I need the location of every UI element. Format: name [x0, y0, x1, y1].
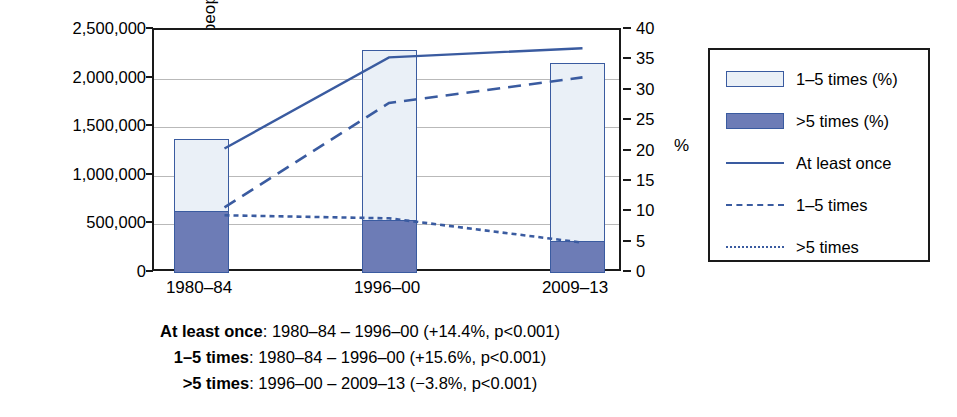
legend-item-label: >5 times (%) — [796, 112, 889, 131]
y2-axis-tick-mark — [623, 118, 631, 120]
legend-swatch-dashed-line-icon — [726, 204, 784, 206]
chart-figure: Number of people % 0500,0001,000,0001,50… — [0, 0, 957, 417]
y-axis-tick-label: 2,500,000 — [73, 19, 146, 38]
y-axis-ticks: 0500,0001,000,0001,500,0002,000,0002,500… — [0, 28, 146, 271]
y2-axis-tick-mark — [623, 149, 631, 151]
line-layer — [154, 30, 623, 273]
legend-item-label: 1–5 times — [796, 196, 868, 215]
x-axis-tick-label: 2009–13 — [542, 278, 608, 298]
annotation-series-name: 1–5 times — [174, 348, 249, 366]
x-axis-tick-label: 1980–84 — [166, 278, 232, 298]
y-axis-tick-label: 0 — [137, 262, 146, 281]
y2-axis-tick-mark — [623, 240, 631, 242]
legend-swatch-dotted-line-icon — [726, 246, 784, 248]
legend-item[interactable]: 1–5 times — [724, 190, 920, 220]
y2-axis-tick-label: 35 — [636, 49, 654, 68]
y2-axis-tick-mark — [623, 88, 631, 90]
annotation-line: At least once: 1980–84 – 1996–00 (+14.4%… — [0, 318, 720, 344]
line-series — [225, 48, 583, 148]
legend-item[interactable]: 1–5 times (%) — [724, 64, 920, 94]
legend-item[interactable]: >5 times — [724, 232, 920, 262]
annotation-series-name: At least once — [160, 322, 263, 340]
annotation-line: 1–5 times: 1980–84 – 1996–00 (+15.6%, p<… — [0, 344, 720, 370]
legend-item[interactable]: At least once — [724, 148, 920, 178]
y2-axis-tick-label: 5 — [636, 231, 645, 250]
x-axis-ticks: 1980–841996–002009–13 — [152, 278, 621, 304]
y2-axis-tick-mark — [623, 209, 631, 211]
y2-axis-tick-mark — [623, 27, 631, 29]
y2-axis-tick-label: 25 — [636, 110, 654, 129]
annotation-detail: : 1996–00 – 2009–13 (−3.8%, p<0.001) — [249, 374, 537, 392]
legend-item-label: >5 times — [796, 238, 859, 257]
y2-axis-ticks: 0510152025303540 — [623, 28, 669, 271]
annotation-line: >5 times: 1996–00 – 2009–13 (−3.8%, p<0.… — [0, 370, 720, 396]
annotation-series-name: >5 times — [183, 374, 250, 392]
legend-swatch-box-icon — [726, 113, 784, 129]
line-series — [225, 77, 583, 207]
y-axis-tick-label: 500,000 — [86, 213, 146, 232]
y2-axis-tick-label: 15 — [636, 170, 654, 189]
y2-axis-tick-mark — [623, 57, 631, 59]
annotation-notes: At least once: 1980–84 – 1996–00 (+14.4%… — [0, 318, 720, 396]
legend-item[interactable]: >5 times (%) — [724, 106, 920, 136]
x-axis-tick-label: 1996–00 — [354, 278, 420, 298]
y2-axis-tick-label: 10 — [636, 201, 654, 220]
plot-area — [152, 28, 621, 271]
y2-axis-tick-mark — [623, 270, 631, 272]
y2-axis-tick-label: 30 — [636, 79, 654, 98]
y2-axis-tick-label: 20 — [636, 140, 654, 159]
annotation-detail: : 1980–84 – 1996–00 (+14.4%, p<0.001) — [263, 322, 560, 340]
y2-axis-tick-label: 0 — [636, 262, 645, 281]
y2-axis-tick-mark — [623, 179, 631, 181]
y2-axis-tick-label: 40 — [636, 19, 654, 38]
annotation-detail: : 1980–84 – 1996–00 (+15.6%, p<0.001) — [249, 348, 546, 366]
legend-swatch-box-icon — [726, 71, 784, 87]
legend-item-label: 1–5 times (%) — [796, 70, 898, 89]
chart-legend: 1–5 times (%)>5 times (%)At least once1–… — [708, 48, 930, 262]
y-axis-tick-label: 1,500,000 — [73, 116, 146, 135]
y-axis-tick-label: 2,000,000 — [73, 67, 146, 86]
legend-item-label: At least once — [796, 154, 891, 173]
line-series — [225, 215, 583, 242]
legend-swatch-solid-line-icon — [726, 162, 784, 164]
y-axis-tick-label: 1,000,000 — [73, 164, 146, 183]
y2-axis-title: % — [674, 136, 689, 156]
